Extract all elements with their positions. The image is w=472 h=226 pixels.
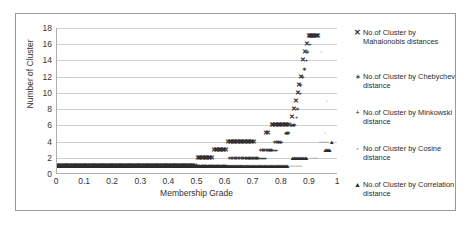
legend-item[interactable]: ✕No.of Cluster by Mahalonobis distances [352, 28, 455, 47]
x-tick-label: 1 [335, 176, 340, 186]
legend-label: No.of Cluster by Correlation distance [363, 180, 455, 199]
legend-marker-icon: ✕ [352, 28, 363, 37]
legend-item[interactable]: ▲No.of Cluster by Correlation distance [352, 180, 455, 199]
data-point: + [286, 130, 290, 136]
data-point: ∗ [298, 82, 303, 88]
y-tick-label: 0 [47, 170, 52, 178]
data-point: ▲ [304, 155, 310, 161]
data-point: + [305, 57, 309, 63]
data-point: ✕ [251, 139, 257, 145]
y-tick-label: 2 [47, 154, 52, 162]
data-point: + [299, 90, 303, 96]
x-tick-label: 0.8 [275, 176, 287, 186]
legend-marker-icon: + [352, 108, 363, 117]
data-point: ∗ [305, 49, 310, 55]
legend-label: No.of Cluster by Mahalonobis distances [363, 28, 455, 47]
y-tick-label: 4 [47, 138, 52, 146]
x-tick-label: 0.3 [134, 176, 146, 186]
data-point: ▲ [284, 163, 290, 169]
data-point: + [275, 147, 279, 153]
x-tick-label: 0.2 [106, 176, 118, 186]
data-point: + [295, 114, 299, 120]
chart-screenshot: Number of Cluster 024681012141618 ✕✕✕✕✕✕… [0, 0, 472, 226]
x-tick-label: 0.1 [78, 176, 90, 186]
data-point: ◦ [326, 98, 328, 104]
y-axis-tick-labels: 024681012141618 [30, 28, 52, 174]
data-point: ∗ [312, 33, 317, 39]
x-tick-label: 0.6 [219, 176, 231, 186]
y-tick-label: 12 [43, 73, 52, 81]
x-tick-label: 0.9 [303, 176, 315, 186]
data-point: ◦ [320, 49, 322, 55]
legend-item[interactable]: +No.of Cluster by Minkowski distance [352, 108, 455, 127]
y-tick-label: 16 [43, 40, 52, 48]
data-point: ◦ [300, 163, 302, 169]
y-tick-label: 10 [43, 89, 52, 97]
plot-area: ✕✕✕✕✕✕✕✕✕✕✕✕✕✕✕✕✕✕✕✕✕✕✕✕✕✕✕✕✕✕✕✕✕✕✕✕✕✕✕✕… [56, 28, 337, 174]
data-point: ▲ [327, 147, 333, 153]
data-point: ◦ [316, 155, 318, 161]
data-point: ✕ [223, 147, 229, 153]
x-tick-label: 0 [54, 176, 59, 186]
data-point: ◦ [324, 130, 326, 136]
x-tick-label: 0.5 [191, 176, 203, 186]
data-point: + [308, 41, 312, 47]
y-tick-label: 18 [43, 24, 52, 32]
legend-item[interactable]: ◦No.of Cluster by Cosine distance [352, 144, 455, 163]
data-markers: ✕✕✕✕✕✕✕✕✕✕✕✕✕✕✕✕✕✕✕✕✕✕✕✕✕✕✕✕✕✕✕✕✕✕✕✕✕✕✕✕… [57, 28, 337, 173]
legend-label: No.of Cluster by Cosine distance [363, 144, 455, 163]
data-point: + [303, 66, 307, 72]
data-point: + [292, 122, 296, 128]
chart-legend: ✕No.of Cluster by Mahalonobis distances∗… [352, 20, 455, 206]
x-axis-label: Membership Grade [56, 188, 337, 198]
y-tick-label: 8 [47, 105, 52, 113]
x-axis-tick-labels: 00.10.20.30.40.50.60.70.80.91 [56, 176, 337, 188]
data-point: ∗ [295, 106, 300, 112]
x-tick-label: 0.4 [162, 176, 174, 186]
legend-marker-icon: ◦ [352, 144, 363, 153]
data-point: + [264, 155, 268, 161]
y-tick-label: 14 [43, 56, 52, 64]
data-point: ∗ [300, 74, 305, 80]
chart-frame: Number of Cluster 024681012141618 ✕✕✕✕✕✕… [15, 13, 456, 211]
legend-marker-icon: ∗ [352, 72, 363, 81]
data-point: ✕ [265, 130, 271, 136]
legend-item[interactable]: ∗No.of Cluster by Chebychev distance [352, 72, 455, 91]
legend-label: No.of Cluster by Minkowski distance [363, 108, 455, 127]
x-tick-label: 0.7 [247, 176, 259, 186]
scatter-chart: Number of Cluster 024681012141618 ✕✕✕✕✕✕… [16, 14, 348, 212]
data-point: ✕ [293, 98, 299, 104]
data-point: ✕ [209, 155, 215, 161]
legend-label: No.of Cluster by Chebychev distance [363, 72, 455, 91]
data-point: ▲ [329, 139, 335, 145]
data-point: + [280, 139, 284, 145]
y-tick-label: 6 [47, 121, 52, 129]
legend-marker-icon: ▲ [352, 180, 363, 189]
